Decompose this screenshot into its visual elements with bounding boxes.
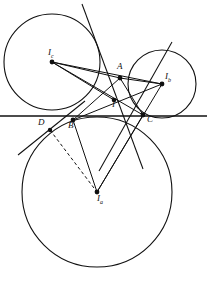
point-label-A: A <box>117 62 123 71</box>
dashed-segments-group <box>50 130 97 192</box>
segment-B-Ia <box>73 120 97 192</box>
tangent-through-A-upper-right-line <box>99 42 172 171</box>
point-dot-Ib <box>160 82 165 87</box>
geometry-figure: A B C D I Ia Ib Ic <box>0 0 207 288</box>
point-label-Ib-sub: b <box>168 77 171 83</box>
point-label-B: B <box>68 121 74 130</box>
point-label-Ic-sub: c <box>51 53 54 59</box>
point-label-Ic: Ic <box>48 48 54 59</box>
geometry-canvas <box>0 0 207 288</box>
point-dot-Ic <box>50 60 55 65</box>
segment-Ic-C <box>52 62 143 115</box>
segment-Ic-Ib <box>52 62 162 84</box>
segment-D-Ia-dashed <box>50 130 97 192</box>
tangent-through-D-lower-left-line <box>18 101 85 155</box>
point-label-Ia: Ia <box>97 194 103 205</box>
point-label-I: I <box>112 100 115 109</box>
point-label-Ia-sub: a <box>100 199 103 205</box>
point-dot-D <box>48 128 52 132</box>
point-dots-group <box>48 60 165 195</box>
segment-Ib-Ia <box>97 84 162 192</box>
point-label-D: D <box>38 118 45 127</box>
point-label-C: C <box>147 115 153 124</box>
segment-A-Ib <box>120 78 162 84</box>
point-dot-C <box>141 113 146 118</box>
point-label-Ib: Ib <box>165 72 171 83</box>
point-dot-A <box>118 76 123 81</box>
